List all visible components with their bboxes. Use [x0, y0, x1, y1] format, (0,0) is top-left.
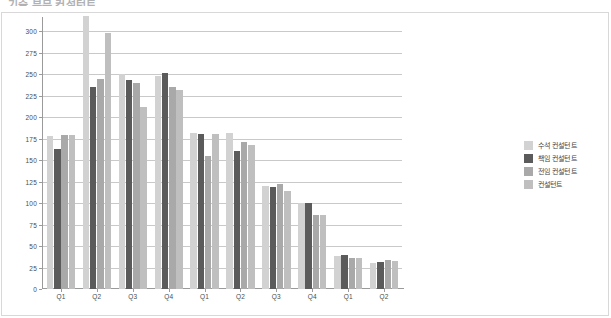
y-tick-label: 50 [29, 243, 37, 250]
bar [270, 187, 277, 289]
chart-title: 기술 부문 컨설턴트 [8, 0, 96, 6]
x-tick-label: Q3 [258, 293, 294, 300]
bar [313, 215, 320, 289]
bar [105, 33, 112, 289]
bar-group [79, 9, 115, 289]
bar [155, 76, 162, 289]
y-tick-mark [39, 289, 42, 290]
chart-frame: 0255075100125150175200225250275300 Q1Q2Q… [1, 12, 609, 316]
y-tick-label: 175 [26, 135, 37, 142]
bar [320, 215, 327, 289]
x-tick-label: Q2 [366, 293, 402, 300]
legend-item[interactable]: 컨설턴트 [524, 178, 608, 190]
y-tick-mark [39, 160, 42, 161]
x-tick-mark [258, 289, 294, 292]
y-tick-mark [39, 246, 42, 247]
x-axis-tick-marks [43, 289, 402, 292]
y-tick-mark [39, 182, 42, 183]
y-tick-label: 275 [26, 49, 37, 56]
y-tick-label: 225 [26, 92, 37, 99]
y-tick-mark [39, 74, 42, 75]
y-tick-label: 100 [26, 200, 37, 207]
legend-item[interactable]: 책임 컨설턴트 [524, 152, 608, 164]
bar [169, 87, 176, 289]
y-tick-mark [39, 268, 42, 269]
y-tick-label: 75 [29, 221, 37, 228]
bar [370, 263, 377, 289]
x-tick-label: Q4 [294, 293, 330, 300]
bar [377, 262, 384, 289]
bar [126, 80, 133, 289]
bar [90, 87, 97, 289]
bar-group [115, 9, 151, 289]
chart-legend: 수석 컨설턴트책임 컨설턴트전임 컨설턴트컨설턴트 [524, 139, 608, 191]
bar-group [258, 9, 294, 289]
legend-swatch-icon [524, 180, 533, 189]
bar-chart: 기술 부문 컨설턴트 02550751001251501752002252502… [0, 0, 611, 318]
bar [61, 135, 68, 289]
legend-swatch-icon [524, 167, 533, 176]
bar [248, 145, 255, 289]
bar [226, 133, 233, 289]
legend-item[interactable]: 전임 컨설턴트 [524, 165, 608, 177]
bar [241, 142, 248, 289]
bar-group [151, 9, 187, 289]
bar-group [294, 9, 330, 289]
legend-swatch-icon [524, 154, 533, 163]
x-tick-label: Q2 [79, 293, 115, 300]
y-tick-label: 300 [26, 28, 37, 35]
legend-item[interactable]: 수석 컨설턴트 [524, 139, 608, 151]
bar [140, 107, 147, 289]
bar [190, 133, 197, 289]
legend-label: 전임 컨설턴트 [538, 166, 577, 176]
bar [212, 134, 219, 289]
y-tick-mark [39, 117, 42, 118]
x-tick-label: Q2 [223, 293, 259, 300]
y-tick-label: 250 [26, 71, 37, 78]
bar-group [43, 9, 79, 289]
x-tick-label: Q1 [43, 293, 79, 300]
bar-group [330, 9, 366, 289]
x-tick-mark [43, 289, 79, 292]
x-tick-mark [115, 289, 151, 292]
bar [341, 255, 348, 289]
bar [133, 83, 140, 289]
y-tick-label: 200 [26, 114, 37, 121]
bar [284, 191, 291, 289]
bar [298, 203, 305, 289]
bar [349, 258, 356, 289]
bar [47, 136, 54, 289]
y-tick-mark [39, 96, 42, 97]
x-tick-mark [223, 289, 259, 292]
bar [356, 258, 363, 289]
legend-label: 수석 컨설턴트 [538, 140, 577, 150]
x-tick-label: Q1 [187, 293, 223, 300]
bar [334, 256, 341, 289]
bar [119, 74, 126, 289]
bar [54, 149, 61, 289]
bar [277, 184, 284, 289]
y-tick-mark [39, 139, 42, 140]
x-tick-mark [294, 289, 330, 292]
y-tick-label: 125 [26, 178, 37, 185]
bar-group [187, 9, 223, 289]
plot-area: 0255075100125150175200225250275300 Q1Q2Q… [42, 31, 402, 289]
legend-label: 책임 컨설턴트 [538, 153, 577, 163]
bar [162, 73, 169, 289]
legend-label: 컨설턴트 [538, 179, 562, 189]
legend-swatch-icon [524, 141, 533, 150]
y-tick-mark [39, 203, 42, 204]
bar [305, 203, 312, 289]
bar [83, 16, 90, 289]
y-tick-label: 150 [26, 157, 37, 164]
bar-groups [43, 9, 402, 289]
x-tick-mark [330, 289, 366, 292]
y-tick-mark [39, 53, 42, 54]
x-tick-mark [366, 289, 402, 292]
plot-inner: 0255075100125150175200225250275300 Q1Q2Q… [42, 31, 402, 289]
x-tick-mark [151, 289, 187, 292]
bar [234, 151, 241, 289]
y-tick-label: 25 [29, 264, 37, 271]
bar [176, 90, 183, 289]
x-tick-mark [187, 289, 223, 292]
